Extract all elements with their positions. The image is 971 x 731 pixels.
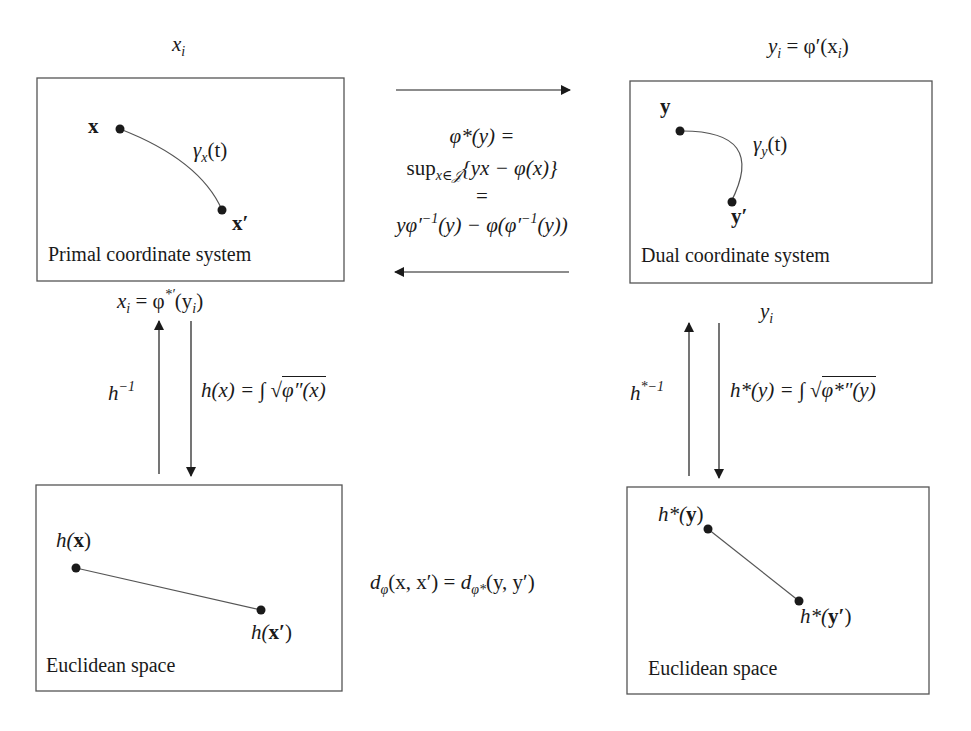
point-y [676,127,685,136]
point-x-prime [218,206,227,215]
dual-geodesic-curve [680,131,742,202]
label-h-of-x: h(x) [56,530,91,551]
label-xi-eq-phistar-prime: xi = φ*′(yi) [117,288,203,316]
legendre-line-4: yφ′−1(y) − φ(φ′−1(y)) [396,212,568,236]
caption-euclid-left: Euclidean space [46,655,175,675]
label-hstar-of-y: h*(y) [658,504,704,525]
point-x [116,125,125,134]
legendre-line-1: φ*(y) = [450,126,515,147]
euclid-right-segment [708,529,799,601]
label-xi-top: xi [172,34,185,59]
point-hx-prime [257,606,266,615]
label-hstar-of-y-prime: h*(y′) [800,606,851,627]
point-hx [72,564,81,573]
label-h-inverse: h−1 [108,380,135,404]
label-hstar-inverse: h*−1 [630,380,664,404]
label-h-definition: h(x) = ∫ √φ″(x) [201,380,326,401]
label-bregman-divergence-equality: dφ(x, x′) = dφ*(y, y′) [370,572,535,597]
label-point-y: y [660,96,671,117]
caption-primal: Primal coordinate system [48,244,251,264]
legendre-line-3: = [476,186,488,207]
label-h-of-x-prime: h(x′) [251,622,292,643]
label-gamma-x: γx(t) [193,140,227,165]
legendre-line-2: supx∈𝒥{yx − φ(x)} [407,158,558,183]
label-point-x-prime: x′ [232,213,248,234]
caption-euclid-right: Euclidean space [648,658,777,678]
label-yi-eq-phi-prime: yi = φ′(xi) [768,36,849,61]
label-hstar-definition: h*(y) = ∫ √φ*″(y) [730,380,876,401]
label-gamma-y: γy(t) [753,134,787,159]
euclid-left-segment [76,568,261,610]
point-hstar-y [704,525,713,534]
caption-dual: Dual coordinate system [641,245,830,265]
label-yi-below-dual: yi [760,301,773,326]
label-point-x: x [88,116,99,137]
label-point-y-prime: y′ [731,206,747,227]
